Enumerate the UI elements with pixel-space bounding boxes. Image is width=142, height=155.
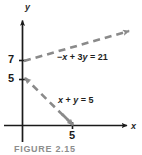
figure-container: y x 7 5 5 −x + 3y = 21 x + y = 5 FIGURE … — [0, 0, 142, 155]
x-tick-label-5: 5 — [69, 130, 75, 141]
y-tick-label-5: 5 — [8, 73, 14, 84]
figure-caption: FIGURE 2.15 — [14, 144, 76, 154]
line-x-plus-y-arrowhead-x-intercept — [62, 114, 73, 125]
eq2-part-end: = 5 — [78, 95, 93, 105]
equation-label-line2: x + y = 5 — [58, 96, 94, 105]
x-axis-label: x — [131, 122, 136, 131]
y-axis-label: y — [25, 3, 30, 12]
equation-label-line1: −x + 3y = 21 — [57, 53, 108, 62]
eq2-part-mid: + — [63, 95, 73, 105]
eq1-part-end: = 21 — [88, 52, 108, 62]
eq1-part-mid: + 3 — [67, 52, 82, 62]
y-tick-label-7: 7 — [8, 54, 14, 65]
